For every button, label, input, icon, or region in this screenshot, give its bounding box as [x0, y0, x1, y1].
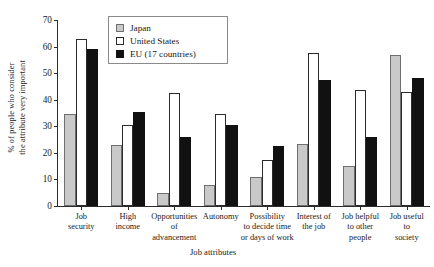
- x-axis-tick-label-line: or days of work: [230, 233, 304, 243]
- bar-group: [343, 20, 377, 206]
- bar-chart-figure: % of people who consider the attribute v…: [0, 0, 434, 267]
- y-axis-tick: [54, 179, 58, 180]
- legend-label: EU (17 countries): [130, 49, 196, 59]
- bar-group: [390, 20, 424, 206]
- bar-eu[interactable]: [87, 49, 98, 206]
- y-axis-tick-label: 60: [43, 42, 52, 52]
- bar-eu[interactable]: [273, 146, 284, 206]
- bar-us[interactable]: [355, 90, 366, 206]
- bar-us[interactable]: [262, 160, 273, 207]
- x-axis-tick: [407, 206, 408, 210]
- y-axis-tick-label: 30: [43, 121, 52, 131]
- bar-japan[interactable]: [204, 185, 215, 206]
- y-axis-tick: [54, 47, 58, 48]
- x-axis-tick-label-line: of: [137, 222, 211, 232]
- bar-japan[interactable]: [157, 193, 168, 206]
- x-axis-title: Job attributes: [190, 247, 236, 257]
- x-axis-tick-label-line: advancement: [137, 233, 211, 243]
- bar-japan[interactable]: [250, 177, 261, 206]
- legend-label: United States: [130, 36, 179, 46]
- bar-eu[interactable]: [133, 112, 144, 206]
- y-axis-tick-label: 20: [43, 148, 52, 158]
- bar-us[interactable]: [401, 92, 412, 206]
- bar-eu[interactable]: [319, 80, 330, 206]
- bar-eu[interactable]: [180, 137, 191, 206]
- bar-group: [297, 20, 331, 206]
- y-axis-title-line-2: the attribute very important: [17, 60, 28, 155]
- bar-group: [250, 20, 284, 206]
- y-axis-tick: [54, 126, 58, 127]
- legend-swatch-icon: [116, 37, 124, 45]
- chart-legend: JapanUnited StatesEU (17 countries): [108, 16, 228, 64]
- legend-label: Japan: [130, 23, 151, 33]
- y-axis-title: % of people who consider the attribute v…: [0, 0, 34, 215]
- bar-eu[interactable]: [226, 125, 237, 206]
- y-axis-tick-label: 70: [43, 15, 52, 25]
- x-axis-tick-label-line: to: [370, 222, 434, 232]
- y-axis-tick: [54, 73, 58, 74]
- bar-us[interactable]: [215, 114, 226, 206]
- y-axis-title-line-1: % of people who consider: [7, 63, 16, 153]
- x-axis-tick: [267, 206, 268, 210]
- bar-eu[interactable]: [366, 137, 377, 206]
- legend-item-eu[interactable]: EU (17 countries): [116, 47, 227, 60]
- bar-us[interactable]: [122, 125, 133, 206]
- x-axis-tick-label-line: Job useful: [370, 212, 434, 222]
- bar-japan[interactable]: [64, 114, 75, 206]
- bar-us[interactable]: [76, 39, 87, 206]
- bar-group: [64, 20, 98, 206]
- bar-japan[interactable]: [297, 144, 308, 206]
- y-axis-tick-label: 0: [47, 201, 52, 211]
- x-axis-tick-label-line: society: [370, 233, 434, 243]
- x-axis-tick: [128, 206, 129, 210]
- y-axis-tick: [54, 20, 58, 21]
- legend-swatch-icon: [116, 24, 124, 32]
- y-axis-tick: [54, 100, 58, 101]
- y-axis-tick-label: 40: [43, 95, 52, 105]
- x-axis-tick-label: Job usefultosociety: [370, 212, 434, 243]
- y-axis-tick: [54, 206, 58, 207]
- x-axis-tick: [81, 206, 82, 210]
- x-axis-tick: [360, 206, 361, 210]
- bar-japan[interactable]: [111, 145, 122, 206]
- y-axis-tick-label: 10: [43, 174, 52, 184]
- x-axis-tick: [174, 206, 175, 210]
- legend-swatch-icon: [116, 50, 124, 58]
- x-axis-tick: [314, 206, 315, 210]
- legend-item-us[interactable]: United States: [116, 34, 227, 47]
- bar-japan[interactable]: [343, 166, 354, 206]
- bar-eu[interactable]: [412, 78, 423, 206]
- y-axis-tick: [54, 153, 58, 154]
- bar-japan[interactable]: [390, 55, 401, 206]
- bar-us[interactable]: [169, 93, 180, 206]
- x-axis-tick: [221, 206, 222, 210]
- legend-item-japan[interactable]: Japan: [116, 21, 227, 34]
- y-axis-tick-label: 50: [43, 68, 52, 78]
- bar-us[interactable]: [308, 53, 319, 206]
